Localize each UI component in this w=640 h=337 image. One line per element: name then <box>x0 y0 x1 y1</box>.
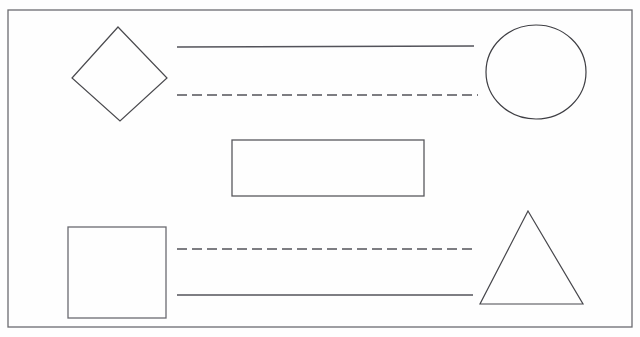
drawing-canvas <box>0 0 640 337</box>
shapes-diagram <box>0 0 640 337</box>
